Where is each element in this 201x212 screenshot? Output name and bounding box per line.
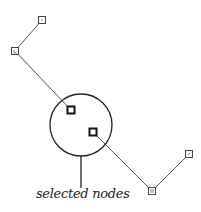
node-n4-selected[interactable] [90, 129, 97, 136]
edge-n4-n5 [93, 132, 152, 191]
node-n6[interactable] [186, 151, 193, 158]
selection-circle [50, 94, 112, 156]
selected-nodes-label: selected nodes [36, 186, 126, 201]
node-n2[interactable] [12, 48, 19, 55]
nodes [12, 17, 193, 195]
edge-n5-n6 [152, 154, 189, 191]
edges [15, 20, 189, 191]
edge-n2-n3 [15, 51, 71, 110]
edge-n1-n2 [15, 20, 42, 51]
node-n3-selected[interactable] [68, 107, 75, 114]
node-n1[interactable] [39, 17, 46, 24]
diagram-canvas [0, 0, 201, 212]
node-n5[interactable] [149, 188, 156, 195]
